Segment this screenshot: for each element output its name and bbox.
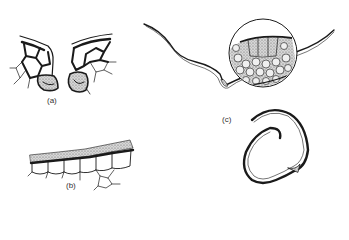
panel-b-epidermis (28, 140, 133, 190)
panel-a-left-stoma (10, 36, 58, 91)
panel-a-label: (a) (47, 96, 57, 105)
panel-b-label: (b) (66, 181, 76, 190)
panel-c-rolled-leaf (244, 110, 308, 183)
panel-a-right-stoma (68, 34, 116, 94)
panel-c-label: (c) (222, 115, 231, 124)
